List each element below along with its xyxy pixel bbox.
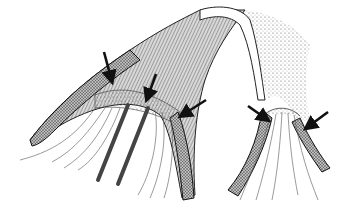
left-structure [20, 10, 245, 200]
stippled-drawing [0, 0, 364, 223]
arrow-5-icon [309, 112, 328, 126]
illustration [0, 0, 364, 223]
